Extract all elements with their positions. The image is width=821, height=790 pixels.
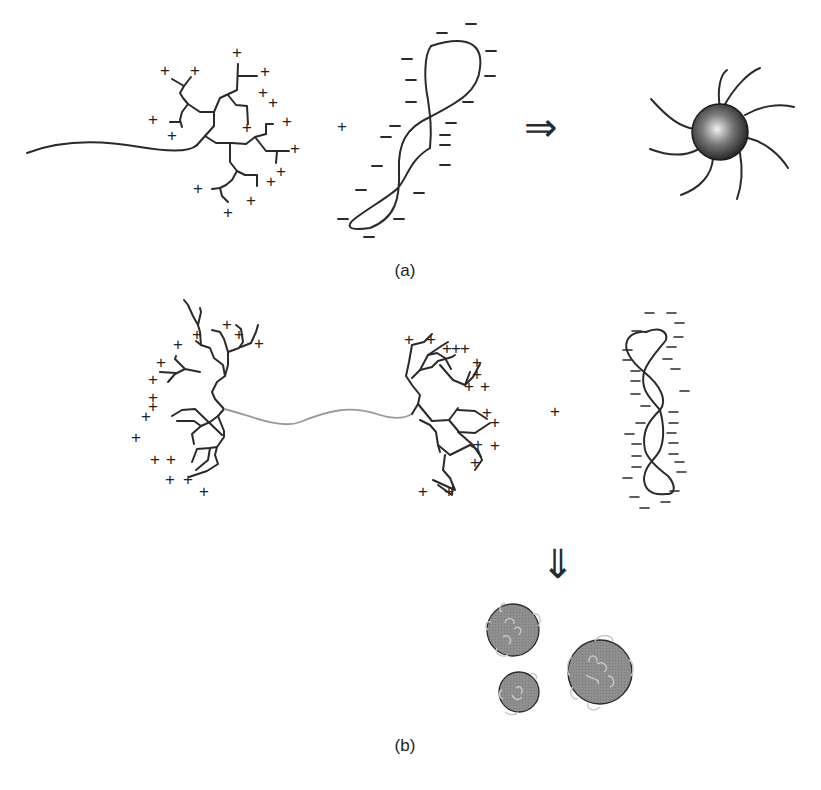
micelle-product-a: [650, 68, 794, 199]
plus-charge: +: [242, 118, 252, 137]
polyanion-a: [350, 41, 481, 229]
plus-charge: +: [258, 83, 268, 102]
plus-charge: +: [141, 407, 151, 426]
plus-charge: +: [464, 377, 474, 396]
plus-charge: +: [268, 93, 278, 112]
plus-charge: +: [148, 370, 158, 389]
particle-2: [499, 672, 539, 715]
plus-charge: +: [234, 325, 244, 344]
panel-label-b: (b): [395, 736, 416, 755]
double-arrow-down-icon: ⇓: [541, 542, 575, 586]
plus-charge: +: [480, 377, 490, 396]
plus-charge: +: [254, 334, 264, 353]
figure-canvas: + + + + + + + + + + + + + + + + +: [0, 0, 821, 790]
positive-charges-a: + + + + + + + + + + + + + + + +: [148, 43, 300, 222]
plus-charge: +: [276, 162, 286, 181]
plus-charge: +: [290, 139, 300, 158]
plus-charge: +: [426, 330, 436, 349]
micelle-core-sphere: [692, 104, 748, 160]
plus-charge: +: [150, 450, 160, 469]
plus-charge: +: [282, 112, 292, 131]
plus-charge: +: [460, 339, 470, 358]
plus-charge: +: [246, 191, 256, 210]
reaction-arrow-right: ⇒: [524, 105, 558, 149]
plus-charge: +: [266, 172, 276, 191]
plus-charge: +: [418, 482, 428, 501]
plus-charge: +: [190, 61, 200, 80]
plus-charge: +: [199, 482, 209, 501]
plus-charge: +: [470, 453, 480, 472]
plus-charge: +: [232, 43, 242, 62]
panel-b: + + + + + + + + + + + + + + + + + + + + …: [131, 300, 689, 755]
plus-operator-a: +: [337, 117, 347, 136]
particle-3: [568, 636, 634, 710]
double-arrow-right-icon: ⇒: [524, 105, 558, 149]
plus-charge: +: [490, 436, 500, 455]
plus-charge: +: [131, 428, 141, 447]
plus-charge: +: [193, 179, 203, 198]
plus-charge: +: [160, 61, 170, 80]
plus-charge: +: [192, 325, 202, 344]
negative-charges-b: [623, 313, 689, 508]
panel-a: + + + + + + + + + + + + + + + + +: [27, 24, 794, 280]
plus-charge: +: [473, 435, 483, 454]
plus-charge: +: [223, 203, 233, 222]
plus-charge: +: [404, 330, 414, 349]
reaction-arrow-down: ⇓: [541, 542, 575, 586]
plus-charge: +: [444, 482, 454, 501]
plus-charge: +: [490, 413, 500, 432]
plus-operator-b: +: [550, 402, 560, 421]
panel-label-a: (a): [395, 261, 416, 280]
plus-charge: +: [260, 62, 270, 81]
positive-charges-b-left: + + + + + + + + + + + + + + + +: [131, 315, 264, 501]
plus-charge: +: [166, 450, 176, 469]
plus-charge: +: [148, 110, 158, 129]
plus-charge: +: [173, 335, 183, 354]
particle-1: [486, 603, 540, 656]
nanoparticles-b: [486, 603, 633, 715]
dumbbell-linker: [224, 409, 412, 424]
plus-charge: +: [222, 315, 232, 334]
negative-charges-a: [338, 24, 496, 237]
plus-charge: +: [167, 126, 177, 145]
polyanion-b: [626, 330, 674, 495]
plus-charge: +: [183, 470, 193, 489]
plus-charge: +: [165, 470, 175, 489]
